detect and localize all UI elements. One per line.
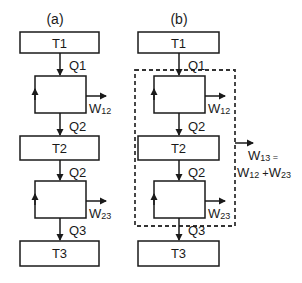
q2-label-upper: Q2 bbox=[69, 119, 86, 134]
q2-label-lower: Q2 bbox=[188, 165, 205, 180]
w23-label: W23 bbox=[208, 206, 230, 221]
reservoir-t1: T1 bbox=[20, 32, 99, 53]
reservoir-t3-label: T3 bbox=[52, 246, 67, 261]
w23-label: W23 bbox=[89, 206, 111, 221]
reservoir-t3-label: T3 bbox=[171, 246, 186, 261]
heat-engine-diagram: (a) T1 Q1 W12 Q2 T2 Q2 bbox=[0, 0, 302, 283]
q3-label: Q3 bbox=[188, 223, 205, 238]
reservoir-t1-label: T1 bbox=[171, 36, 186, 51]
q2-label-lower: Q2 bbox=[69, 165, 86, 180]
reservoir-t3: T3 bbox=[20, 241, 99, 266]
q3-label: Q3 bbox=[69, 223, 86, 238]
reservoir-t2: T2 bbox=[20, 136, 99, 160]
q2-label-upper: Q2 bbox=[188, 119, 205, 134]
w12-label: W12 bbox=[208, 101, 230, 116]
reservoir-t1: T1 bbox=[138, 32, 219, 53]
panel-b-label: (b) bbox=[170, 11, 187, 27]
q1-label: Q1 bbox=[69, 58, 86, 73]
panel-a: (a) T1 Q1 W12 Q2 T2 Q2 bbox=[20, 11, 111, 266]
reservoir-t2-label: T2 bbox=[171, 141, 186, 156]
w13-label: W13 = bbox=[248, 148, 278, 163]
reservoir-t2-label: T2 bbox=[52, 141, 67, 156]
reservoir-t2: T2 bbox=[138, 136, 219, 160]
engine-2 bbox=[154, 181, 205, 218]
w12-label: W12 bbox=[89, 101, 111, 116]
panel-b: (b) T1 Q1 W12 Q2 T2 W13 = W12 +W23 bbox=[135, 11, 291, 266]
engine-1 bbox=[154, 76, 205, 113]
w13-equation: W12 +W23 bbox=[237, 165, 291, 180]
reservoir-t1-label: T1 bbox=[52, 36, 67, 51]
reservoir-t3: T3 bbox=[138, 241, 219, 266]
engine-2 bbox=[35, 181, 86, 218]
panel-a-label: (a) bbox=[46, 11, 63, 27]
q1-label: Q1 bbox=[188, 58, 205, 73]
engine-1 bbox=[35, 76, 86, 113]
